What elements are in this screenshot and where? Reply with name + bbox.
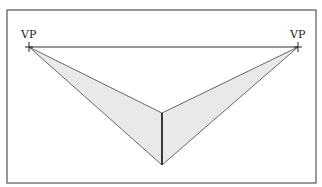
right-plane (162, 47, 298, 165)
vanishing-point-label-right: VP (290, 29, 305, 40)
left-plane (29, 47, 162, 165)
vanishing-point-marker-left (25, 42, 33, 52)
vanishing-point-marker-right (294, 42, 302, 52)
perspective-diagram (0, 0, 322, 187)
vanishing-point-label-left: VP (21, 29, 36, 40)
